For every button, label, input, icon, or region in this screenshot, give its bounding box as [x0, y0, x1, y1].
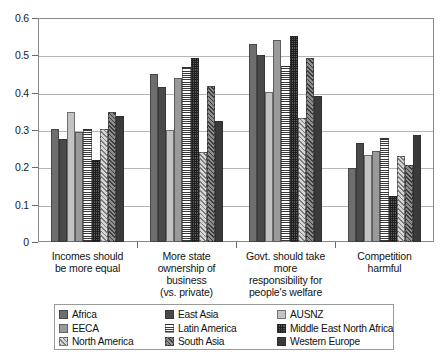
legend-item[interactable]: Middle East North Africa	[277, 321, 395, 334]
legend-swatch-icon	[59, 324, 68, 333]
bar	[389, 196, 397, 242]
bar	[273, 40, 281, 242]
legend-label: EECA	[72, 323, 99, 334]
x-tick-mark	[137, 242, 138, 248]
bar	[150, 74, 158, 242]
legend-swatch-icon	[277, 337, 286, 346]
x-axis-label: More stateownership ofbusiness(vs. priva…	[137, 250, 236, 298]
bar	[158, 87, 166, 242]
bar-group	[236, 18, 335, 242]
bar	[281, 66, 289, 242]
y-tick-label: 0.5	[15, 49, 29, 61]
legend-label: Latin America	[178, 323, 236, 334]
y-tick-label: 0.1	[15, 199, 29, 211]
bar	[257, 55, 265, 242]
legend-item[interactable]: East Asia	[165, 308, 277, 321]
bar	[348, 168, 356, 242]
bar	[249, 44, 257, 242]
bar-group	[38, 18, 137, 242]
legend-swatch-icon	[277, 310, 286, 319]
legend-item[interactable]: Latin America	[165, 321, 277, 334]
legend-label: Western Europe	[290, 336, 360, 347]
bar	[100, 129, 108, 242]
legend-item[interactable]: North America	[59, 335, 165, 348]
legend-label: Middle East North Africa	[290, 323, 393, 334]
bar	[397, 156, 405, 242]
bar-group	[335, 18, 434, 242]
x-axis-label: Competitionharmful	[335, 250, 434, 274]
legend-label: East Asia	[178, 309, 218, 320]
chart-legend: AfricaEast AsiaAUSNZEECALatin AmericaMid…	[54, 304, 394, 350]
bar	[306, 58, 314, 242]
bar	[108, 112, 116, 242]
bar	[67, 112, 75, 242]
bar	[380, 138, 388, 242]
bar	[182, 67, 190, 242]
y-tick-label: 0	[23, 236, 29, 248]
bar	[290, 36, 298, 242]
bar	[215, 121, 223, 242]
bar	[59, 139, 67, 242]
legend-swatch-icon	[277, 324, 286, 333]
bar	[92, 160, 100, 242]
legend-swatch-icon	[165, 324, 174, 333]
bar	[405, 165, 413, 242]
bar	[314, 96, 322, 242]
bar	[199, 152, 207, 242]
bar	[372, 151, 380, 242]
x-tick-mark	[236, 242, 237, 248]
x-axis-label: Incomes shouldbe more equal	[38, 250, 137, 274]
y-tick-label: 0.2	[15, 161, 29, 173]
bar	[51, 129, 59, 242]
bar	[174, 78, 182, 242]
bar	[298, 118, 306, 242]
x-axis-label: Govt. should takemoreresponsibility forp…	[236, 250, 335, 298]
bar-group	[137, 18, 236, 242]
legend-item[interactable]: EECA	[59, 321, 165, 334]
legend-swatch-icon	[59, 310, 68, 319]
legend-label: North America	[72, 336, 133, 347]
legend-label: South Asia	[178, 336, 224, 347]
y-tick-label: 0.4	[15, 87, 29, 99]
bar	[75, 132, 83, 243]
y-tick-label: 0.3	[15, 124, 29, 136]
legend-label: Africa	[72, 309, 97, 320]
legend-item[interactable]: AUSNZ	[277, 308, 395, 321]
legend-swatch-icon	[165, 310, 174, 319]
bar	[413, 135, 421, 242]
bar	[364, 155, 372, 242]
bar	[116, 116, 124, 242]
bar	[207, 86, 215, 242]
legend-swatch-icon	[59, 337, 68, 346]
legend-swatch-icon	[165, 337, 174, 346]
y-tick-mark	[32, 242, 38, 243]
legend-item[interactable]: South Asia	[165, 335, 277, 348]
legend-item[interactable]: Africa	[59, 308, 165, 321]
chart-container: 00.10.20.30.40.50.6 Incomes shouldbe mor…	[0, 0, 442, 357]
bar	[191, 58, 199, 242]
bar	[166, 130, 174, 242]
y-axis: 00.10.20.30.40.50.6	[0, 0, 38, 260]
bar	[265, 92, 273, 242]
bars-layer	[38, 18, 434, 242]
bar	[356, 143, 364, 242]
legend-label: AUSNZ	[290, 309, 323, 320]
legend-item[interactable]: Western Europe	[277, 335, 395, 348]
y-tick-label: 0.6	[15, 12, 29, 24]
legend-grid: AfricaEast AsiaAUSNZEECALatin AmericaMid…	[59, 308, 393, 348]
x-tick-mark	[335, 242, 336, 248]
bar	[83, 129, 91, 242]
